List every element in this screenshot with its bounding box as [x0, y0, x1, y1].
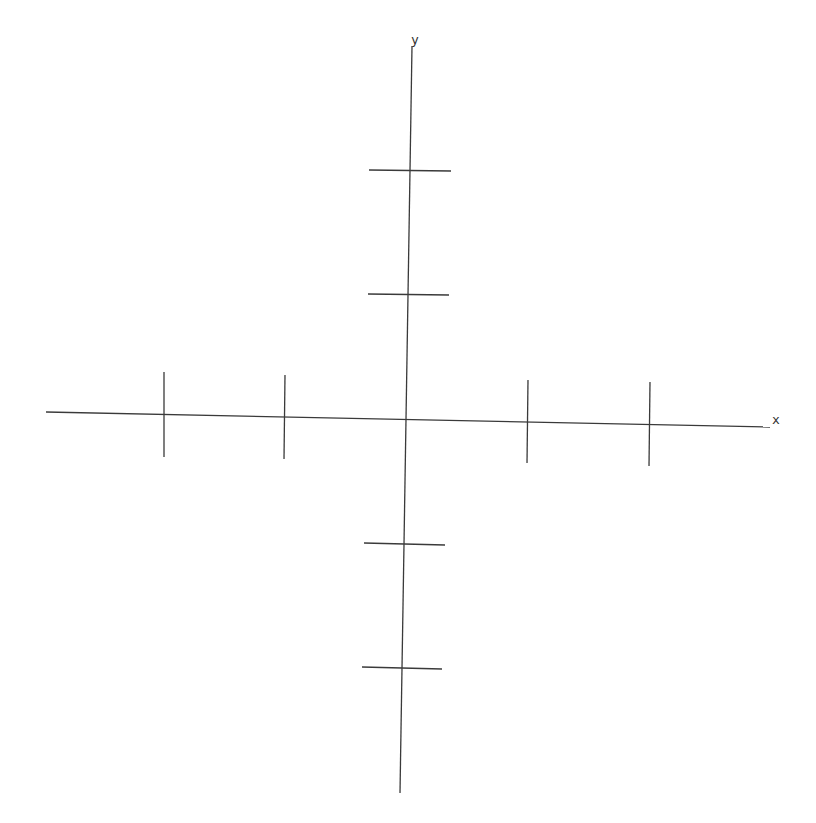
x-tick-mark: [284, 375, 285, 459]
y-tick-mark: [368, 294, 449, 295]
y-tick-mark: [369, 170, 451, 171]
y-axis-label: y: [411, 33, 419, 46]
axes-drawing: [0, 0, 816, 823]
x-tick-mark: [527, 380, 528, 463]
x-axis-line: [46, 412, 770, 427]
coordinate-diagram: x y: [0, 0, 816, 823]
x-axis-label: x: [772, 413, 780, 426]
x-tick-mark: [649, 382, 650, 466]
